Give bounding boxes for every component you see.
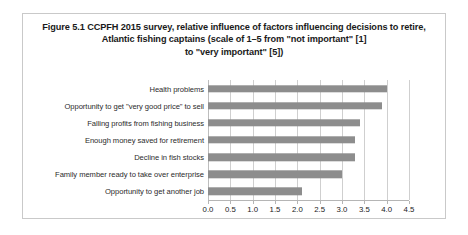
chart-row: Opportunity to get another job — [23, 183, 447, 200]
x-tick-label: 4.5 — [404, 205, 415, 214]
x-tick-label: 1.5 — [270, 205, 281, 214]
chart-plot-area: Health problemsOpportunity to get "very … — [23, 74, 447, 220]
chart-bars: Health problemsOpportunity to get "very … — [23, 80, 447, 200]
chart-row: Falling profits from fishing business — [23, 114, 447, 131]
x-tick — [230, 201, 231, 204]
bar — [208, 85, 387, 92]
x-tick-label: 3.0 — [337, 205, 348, 214]
bar — [208, 153, 355, 160]
category-label: Opportunity to get "very good price" to … — [64, 101, 204, 110]
x-tick — [364, 201, 365, 204]
x-tick-label: 1.0 — [247, 205, 258, 214]
chart-row: Family member ready to take over enterpr… — [23, 166, 447, 183]
x-tick — [387, 201, 388, 204]
bar — [208, 119, 360, 126]
x-tick — [275, 201, 276, 204]
x-axis-tick-labels: 0.00.51.01.52.02.53.03.54.04.5 — [208, 205, 409, 219]
category-label: Enough money saved for retirement — [85, 135, 204, 144]
figure-title-line-2: Atlantic fishing captains (scale of 1–5 … — [33, 33, 435, 45]
x-tick-label: 2.0 — [292, 205, 303, 214]
figure-title: Figure 5.1 CCPFH 2015 survey, relative i… — [23, 14, 445, 58]
x-tick-label: 4.0 — [381, 205, 392, 214]
figure-container: Figure 5.1 CCPFH 2015 survey, relative i… — [22, 13, 446, 219]
x-tick-label: 2.5 — [314, 205, 325, 214]
x-tick — [409, 201, 410, 204]
category-label: Decline in fish stocks — [134, 153, 204, 162]
category-label: Family member ready to take over enterpr… — [55, 170, 204, 179]
x-tick — [208, 201, 209, 204]
chart-row: Opportunity to get "very good price" to … — [23, 97, 447, 114]
category-label: Falling profits from fishing business — [87, 118, 204, 127]
x-tick — [297, 201, 298, 204]
x-tick — [253, 201, 254, 204]
category-label: Opportunity to get another job — [105, 187, 204, 196]
bar — [208, 102, 382, 109]
bar — [208, 188, 302, 195]
bar — [208, 136, 355, 143]
category-label: Health problems — [149, 84, 204, 93]
x-tick-label: 0.0 — [203, 205, 214, 214]
x-tick — [342, 201, 343, 204]
x-tick — [320, 201, 321, 204]
chart-row: Decline in fish stocks — [23, 149, 447, 166]
figure-title-line-1: Figure 5.1 CCPFH 2015 survey, relative i… — [33, 21, 435, 33]
chart-row: Health problems — [23, 80, 447, 97]
chart-row: Enough money saved for retirement — [23, 131, 447, 148]
figure-title-line-3: to "very important" [5]) — [33, 46, 435, 58]
x-tick-label: 0.5 — [225, 205, 236, 214]
x-tick-label: 3.5 — [359, 205, 370, 214]
bar — [208, 171, 342, 178]
